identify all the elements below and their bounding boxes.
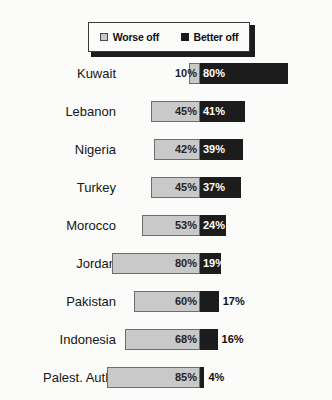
bar-area: 45%37% (0, 177, 332, 199)
value-label-better-off: 41% (203, 101, 225, 122)
bar-area: 85%4% (0, 367, 332, 389)
bar-area: 53%24% (0, 215, 332, 237)
worse-off-swatch-icon (100, 33, 108, 41)
bar-area: 10%80% (0, 63, 332, 85)
chart-rows: Kuwait10%80%Lebanon45%41%Nigeria42%39%Tu… (0, 62, 332, 400)
legend-label-better-off: Better off (194, 31, 239, 43)
chart-row: Palest. Auth.85%4% (0, 366, 332, 400)
value-label-worse-off: 68% (140, 329, 197, 350)
value-label-better-off: 19% (203, 253, 225, 274)
chart-row: Indonesia68%16% (0, 328, 332, 366)
better-off-swatch-icon (181, 33, 189, 41)
bar-area: 60%17% (0, 291, 332, 313)
legend-item-worse-off: Worse off (100, 31, 159, 43)
legend-box: Worse off Better off (88, 22, 250, 52)
legend-label-worse-off: Worse off (113, 31, 159, 43)
bar-segment-better-off (200, 329, 218, 350)
value-label-worse-off: 45% (140, 177, 197, 198)
value-label-worse-off: 45% (140, 101, 197, 122)
value-label-worse-off: 53% (140, 215, 197, 236)
chart-row: Pakistan60%17% (0, 290, 332, 328)
value-label-better-off: 17% (223, 291, 245, 312)
value-label-better-off: 39% (203, 139, 225, 160)
chart-legend: Worse off Better off (88, 22, 252, 54)
bar-segment-better-off (200, 367, 204, 388)
value-label-worse-off: 85% (140, 367, 197, 388)
chart-row: Morocco53%24% (0, 214, 332, 252)
value-label-better-off: 4% (208, 367, 224, 388)
value-label-better-off: 16% (222, 329, 244, 350)
chart-row: Jordan80%19% (0, 252, 332, 290)
legend-item-better-off: Better off (181, 31, 239, 43)
chart-row: Nigeria42%39% (0, 138, 332, 176)
chart-row: Kuwait10%80% (0, 62, 332, 100)
value-label-better-off: 80% (203, 63, 225, 84)
chart-row: Lebanon45%41% (0, 100, 332, 138)
bar-area: 42%39% (0, 139, 332, 161)
bar-area: 45%41% (0, 101, 332, 123)
value-label-worse-off: 10% (140, 63, 197, 84)
bar-segment-better-off (200, 291, 219, 312)
bar-area: 68%16% (0, 329, 332, 351)
bar-area: 80%19% (0, 253, 332, 275)
value-label-better-off: 24% (203, 215, 225, 236)
diverging-bar-chart: Worse off Better off Kuwait10%80%Lebanon… (0, 0, 332, 400)
chart-row: Turkey45%37% (0, 176, 332, 214)
value-label-worse-off: 80% (140, 253, 197, 274)
value-label-better-off: 37% (203, 177, 225, 198)
value-label-worse-off: 42% (140, 139, 197, 160)
value-label-worse-off: 60% (140, 291, 197, 312)
